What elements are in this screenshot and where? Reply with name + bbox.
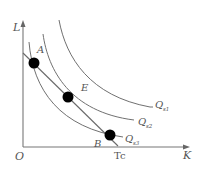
x-axis	[23, 145, 190, 150]
qs2-label: Q s2	[138, 116, 153, 129]
qs3-label: Q s3	[125, 133, 140, 146]
svg-text:Q: Q	[155, 99, 163, 110]
svg-text:Q: Q	[125, 133, 133, 144]
point-e	[63, 92, 74, 103]
point-b	[105, 130, 116, 141]
svg-text:Q: Q	[138, 116, 146, 127]
y-axis-arrow-icon	[21, 20, 26, 27]
point-a	[29, 58, 40, 69]
isoquant-diagram: L K O Tc A E B Q s1 Q s2 Q s3	[0, 0, 206, 171]
x-axis-label: K	[182, 149, 192, 162]
tc-label: Tc	[114, 150, 126, 161]
svg-text:s3: s3	[133, 140, 140, 146]
svg-text:s1: s1	[163, 106, 169, 112]
point-b-label: B	[93, 138, 101, 149]
origin-label: O	[15, 150, 24, 163]
point-a-label: A	[36, 44, 44, 55]
y-axis-label: L	[12, 21, 20, 34]
qs1-label: Q s1	[150, 99, 169, 112]
isoquant-qs3	[29, 42, 123, 137]
svg-text:s2: s2	[146, 123, 153, 129]
y-axis	[21, 20, 26, 147]
point-e-label: E	[80, 82, 89, 93]
